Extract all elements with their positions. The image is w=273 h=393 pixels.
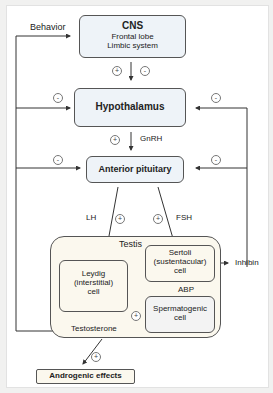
cns-title: CNS [80, 20, 185, 31]
testis-label: Testis [119, 239, 142, 249]
androgenic-effects-node: Androgenic effects [36, 369, 135, 384]
spermatogenic-line1: Spermatogenic [146, 304, 214, 313]
sertoli-cell-node: Sertoli (sustentacular) cell [145, 245, 215, 282]
spermatogenic-cell-node: Spermatogenic cell [145, 296, 215, 333]
minus-sign: - [53, 155, 63, 165]
spermatogenic-line2: cell [146, 313, 214, 322]
behavior-label: Behavior [30, 22, 66, 32]
cns-frontal-lobe: Frontal lobe [80, 32, 185, 41]
sertoli-line3: cell [146, 266, 214, 275]
lh-label: LH [86, 213, 96, 222]
minus-sign: - [53, 93, 63, 103]
plus-sign: + [131, 311, 141, 321]
leydig-line1: Leydig [60, 269, 127, 278]
plus-sign: + [112, 66, 122, 76]
abp-label: ABP [178, 285, 194, 294]
leydig-line3: cell [60, 287, 127, 296]
testosterone-label: Testosterone [71, 324, 117, 333]
plus-sign: + [110, 135, 120, 145]
androgenic-effects-label: Androgenic effects [37, 371, 134, 380]
hypothalamus-label: Hypothalamus [75, 101, 185, 112]
inhibin-label: Inhibin [235, 258, 259, 267]
cns-limbic-system: Limbic system [80, 41, 185, 50]
leydig-line2: (interstitial) [60, 278, 127, 287]
anterior-pituitary-label: Anterior pituitary [87, 164, 183, 174]
plus-sign: + [115, 214, 125, 224]
leydig-cell-node: Leydig (interstitial) cell [59, 260, 128, 312]
minus-sign: - [140, 66, 150, 76]
hypothalamus-node: Hypothalamus [74, 88, 186, 127]
anterior-pituitary-node: Anterior pituitary [86, 156, 184, 183]
fsh-label: FSH [176, 213, 192, 222]
gnrh-label: GnRH [140, 134, 162, 143]
plus-sign: + [153, 214, 163, 224]
sertoli-line2: (sustentacular) [146, 257, 214, 266]
minus-sign: - [211, 155, 221, 165]
plus-sign: + [91, 352, 101, 362]
minus-sign: - [211, 93, 221, 103]
sertoli-line1: Sertoli [146, 248, 214, 257]
cns-node: CNS Frontal lobe Limbic system [79, 15, 186, 58]
